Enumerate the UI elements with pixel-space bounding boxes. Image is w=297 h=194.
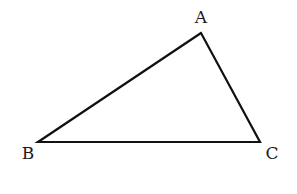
vertex-label-c: C: [265, 143, 278, 163]
triangle-abc: [38, 33, 260, 142]
vertex-label-b: B: [22, 143, 35, 163]
vertex-label-a: A: [194, 7, 208, 27]
triangle-diagram: A B C: [0, 0, 297, 194]
